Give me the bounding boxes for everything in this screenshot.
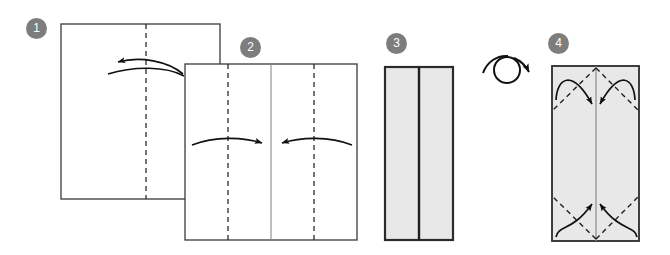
- diagram-canvas: [0, 0, 670, 255]
- step-4-figure: [552, 66, 639, 241]
- step-2-figure: [185, 64, 357, 240]
- step-badge-4: 4: [548, 33, 569, 54]
- step-badge-3: 3: [386, 33, 407, 54]
- step-badge-2: 2: [240, 37, 261, 58]
- origami-instruction-diagram: 1 2 3 4: [0, 0, 670, 255]
- rotate-icon: [483, 56, 529, 83]
- step-3-figure: [385, 67, 453, 240]
- step-badge-1: 1: [26, 18, 47, 39]
